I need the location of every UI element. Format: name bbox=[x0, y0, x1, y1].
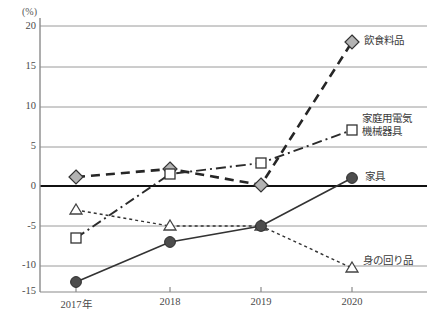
legend-label-household-electric-appliances: 家庭用電気 機械器具 bbox=[362, 113, 424, 138]
plot-area bbox=[0, 0, 427, 323]
series-food-beverages bbox=[69, 35, 359, 192]
legend-label-furniture: 家具 bbox=[365, 171, 385, 183]
data-point-marker bbox=[165, 237, 176, 248]
data-point-marker bbox=[71, 277, 82, 288]
legend-label-food-beverages: 飲食料品 bbox=[364, 35, 404, 47]
data-point-marker bbox=[70, 204, 82, 214]
data-point-marker bbox=[346, 262, 358, 272]
data-point-marker bbox=[71, 233, 81, 243]
legend-label-line2: 機械器具 bbox=[362, 126, 424, 139]
series-personal-effects bbox=[70, 204, 358, 272]
data-point-marker bbox=[254, 178, 268, 192]
legend-label-line1: 家庭用電気 bbox=[362, 113, 424, 126]
series-furniture bbox=[71, 173, 358, 288]
data-point-marker bbox=[347, 125, 357, 135]
x-axis-ticks bbox=[76, 287, 352, 292]
data-point-marker bbox=[165, 169, 175, 179]
data-point-marker bbox=[256, 158, 266, 168]
legend-label-personal-effects: 身の回り品 bbox=[363, 255, 413, 267]
data-point-marker bbox=[69, 170, 83, 184]
data-point-marker bbox=[345, 35, 359, 49]
line-chart: (%) 20 15 10 5 0 -5 -10 -15 2017年 2018 2… bbox=[0, 0, 427, 323]
data-point-marker bbox=[256, 221, 267, 232]
data-point-marker bbox=[347, 173, 358, 184]
